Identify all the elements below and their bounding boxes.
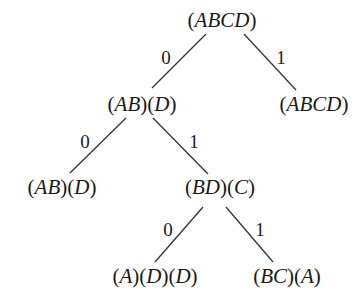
edge-label: 0: [163, 219, 173, 240]
edge-label: 1: [276, 47, 286, 68]
tree-edge-root-n1: [244, 34, 296, 90]
tree-node-n1: (ABCD): [280, 92, 349, 116]
tree-edge-n0-n00: [70, 118, 126, 173]
tree-edge-n01-n010: [155, 207, 203, 262]
tree-node-n010: (A)(D)(D): [112, 264, 197, 288]
tree-edge-n0-n01: [153, 118, 208, 174]
edge-label: 1: [189, 131, 199, 152]
edge-label: 1: [255, 219, 265, 240]
tree-node-n011: (BC)(A): [253, 264, 321, 288]
tree-node-root: (ABCD): [188, 8, 257, 32]
edge-label: 0: [161, 47, 171, 68]
tree-edge-root-n0: [152, 34, 206, 88]
tree-node-n01: (BD)(C): [185, 175, 255, 199]
tree-node-n0: (AB)(D): [108, 92, 177, 116]
tree-edge-n01-n011: [226, 207, 273, 262]
tree-node-n00: (AB)(D): [28, 175, 97, 199]
tree-diagram: 010101(ABCD)(AB)(D)(ABCD)(AB)(D)(BD)(C)(…: [0, 0, 358, 306]
tree-svg: 010101(ABCD)(AB)(D)(ABCD)(AB)(D)(BD)(C)(…: [0, 0, 358, 306]
edge-label: 0: [80, 131, 90, 152]
